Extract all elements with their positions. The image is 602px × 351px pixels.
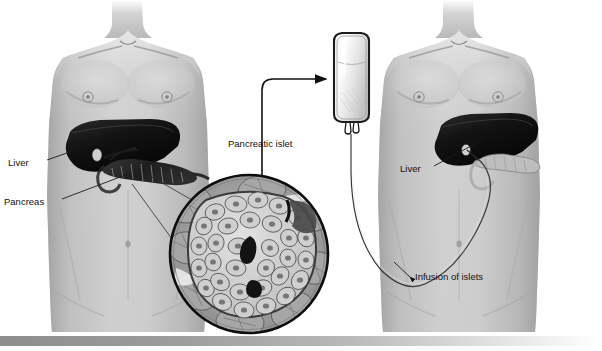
iv-bag [334,33,369,134]
label-liver-right: Liver [400,163,421,174]
islet-transplant-figure: Liver Pancreas Pancreatic islet Liver In… [0,0,602,351]
islet-to-bag-flow [262,79,326,180]
footer-divider-bar [0,336,602,346]
iv-bag-ports [345,122,359,134]
label-pancreas-left: Pancreas [4,196,44,207]
label-pancreatic-islet: Pancreatic islet [228,138,293,149]
flow-path [262,79,326,180]
recipient-navel [456,241,461,248]
donor-pec-left [61,60,129,108]
label-infusion-of-islets: Infusion of islets [415,271,483,282]
donor-pec-right [127,60,195,108]
donor-navel [125,241,130,248]
recipient-pec-left [392,60,460,108]
recipient-pec-right [458,60,526,108]
label-liver-left: Liver [8,157,29,168]
recipient-torso [361,0,557,332]
figure-canvas: Liver Pancreas Pancreatic islet Liver In… [0,0,602,351]
donor-gallbladder [92,149,102,162]
